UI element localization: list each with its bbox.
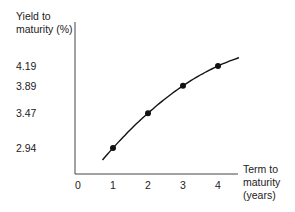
y-tick-label: 2.94 <box>16 142 37 154</box>
x-tick-label: 2 <box>145 179 151 191</box>
data-point <box>145 110 151 116</box>
x-axis-label-line-2: maturity <box>243 176 281 188</box>
y-tick-label: 4.19 <box>16 60 37 72</box>
x-tick-label: 1 <box>110 179 116 191</box>
data-point <box>215 63 221 69</box>
x-axis-label-line-1: Term to <box>243 163 278 175</box>
x-tick-label: 3 <box>180 179 186 191</box>
y-tick-label: 3.47 <box>16 107 37 119</box>
data-point <box>180 83 186 89</box>
y-axis-label-line-2: maturity (%) <box>16 23 73 35</box>
data-point <box>110 145 116 151</box>
x-axis-label-line-3: (years) <box>243 189 276 201</box>
yield-curve-chart: Yield to maturity (%) Term to maturity (… <box>0 0 295 212</box>
y-tick-label: 3.89 <box>16 80 37 92</box>
y-axis-label-line-1: Yield to <box>16 10 51 22</box>
yield-curve-line <box>103 58 240 160</box>
x-tick-label: 0 <box>75 179 81 191</box>
x-tick-label: 4 <box>215 179 221 191</box>
